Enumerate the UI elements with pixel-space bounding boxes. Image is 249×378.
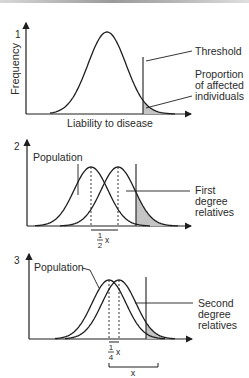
relatives-affected-shade: [136, 192, 178, 226]
proportion-pointer: [146, 96, 192, 108]
liability-threshold-diagram: 1 Frequency Threshold Proportion of affe…: [0, 0, 249, 378]
shift-numerator: 1: [98, 231, 103, 240]
panel-3: 3 Population Second degree relatives 1 4…: [14, 254, 237, 378]
threshold-pointer: [146, 51, 192, 61]
full-shift-label: x: [131, 368, 136, 378]
relatives-label-line-3: relatives: [198, 319, 237, 331]
proportion-label-line-3: individuals: [195, 90, 244, 102]
panel-2: 2 Population First degree relatives 1 2 …: [14, 140, 234, 250]
second-degree-relatives-curve: [65, 280, 175, 339]
relatives-label-line-3: relatives: [195, 206, 234, 218]
population-label: Population: [33, 151, 83, 163]
panel-2-number: 2: [14, 141, 20, 152]
y-axis-label: Frequency: [9, 43, 21, 95]
shift-variable: x: [105, 235, 110, 245]
population-pointer: [82, 268, 99, 288]
shift-denominator: 2: [98, 241, 103, 250]
shift-denominator: 4: [109, 353, 114, 362]
full-shift-bracket: [109, 363, 158, 367]
population-curve: [35, 167, 150, 226]
population-curve: [50, 32, 175, 114]
population-label: Population: [34, 261, 84, 273]
shift-variable: x: [116, 347, 121, 357]
panel-3-number: 3: [14, 255, 20, 266]
threshold-label: Threshold: [195, 45, 242, 57]
shift-numerator: 1: [109, 343, 114, 352]
x-axis-label: Liability to disease: [67, 117, 153, 129]
panel-1: 1 Frequency Threshold Proportion of affe…: [9, 23, 244, 129]
panel-1-number: 1: [15, 29, 21, 40]
